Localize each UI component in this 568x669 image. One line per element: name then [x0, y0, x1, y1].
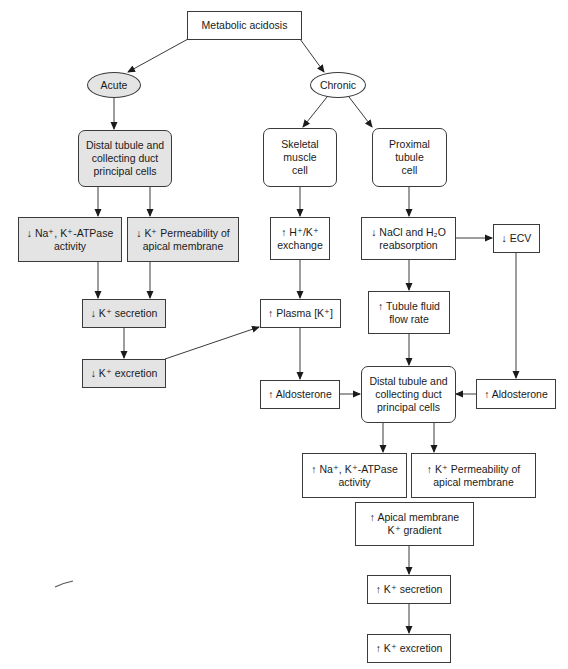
ecv-box: ↓ ECV: [493, 224, 540, 253]
h-k-exchange-box: ↑ H⁺/K⁺ exchange: [270, 217, 330, 260]
chronic-label: Chronic: [320, 79, 356, 92]
chronic-k-permeability-box: ↑ K⁺ Permeability of apical membrane: [411, 453, 536, 498]
acute-label: Acute: [101, 79, 128, 92]
h-k-exchange-label: ↑ H⁺/K⁺ exchange: [277, 226, 323, 252]
chronic-na-k-atpase-label: ↑ Na⁺, K⁺-ATPase activity: [311, 463, 398, 489]
metabolic-acidosis-box: Metabolic acidosis: [187, 11, 302, 40]
acute-k-permeability-label: ↓ K⁺ Permeability of apical membrane: [136, 227, 230, 253]
tubule-flow-box: ↑ Tubule fluid flow rate: [368, 291, 450, 334]
chronic-distal-cells-label: Distal tubule and collecting duct princi…: [369, 375, 447, 414]
acute-k-excretion-box: ↓ K⁺ excretion: [82, 359, 166, 388]
arrow-title-to-chronic: [300, 39, 324, 72]
nacl-reabsorption-box: ↓ NaCl and H₂O reabsorption: [361, 217, 456, 260]
tubule-flow-label: ↑ Tubule fluid flow rate: [378, 300, 440, 326]
ecv-label: ↓ ECV: [502, 232, 532, 245]
acute-k-secretion-label: ↓ K⁺ secretion: [91, 307, 158, 320]
apical-gradient-box: ↑ Apical membrane K⁺ gradient: [355, 502, 474, 546]
acute-k-excretion-label: ↓ K⁺ excretion: [91, 367, 158, 380]
acute-k-secretion-box: ↓ K⁺ secretion: [82, 299, 166, 328]
stray-pen-mark: [55, 581, 73, 587]
nacl-reabsorption-label: ↓ NaCl and H₂O reabsorption: [371, 226, 446, 252]
acute-k-permeability-box: ↓ K⁺ Permeability of apical membrane: [127, 217, 239, 262]
arrow-title-to-acute: [128, 39, 188, 72]
acute-distal-cells-box: Distal tubule and collecting duct princi…: [78, 130, 172, 187]
chronic-k-excretion-box: ↑ K⁺ excretion: [367, 634, 451, 663]
plasma-k-label: ↑ Plasma [K⁺]: [268, 307, 333, 320]
acute-na-k-atpase-box: ↓ Na⁺, K⁺-ATPase activity: [18, 217, 122, 262]
aldosterone-right-box: ↑ Aldosterone: [476, 379, 556, 409]
aldosterone-left-label: ↑ Aldosterone: [268, 388, 332, 401]
chronic-distal-cells-box: Distal tubule and collecting duct princi…: [361, 366, 456, 423]
arrow-chronic-to-skeletal: [303, 97, 327, 127]
connector-layer: [0, 0, 568, 669]
arrow-excretion-to-plasma: [165, 327, 259, 359]
acute-na-k-atpase-label: ↓ Na⁺, K⁺-ATPase activity: [27, 227, 114, 253]
aldosterone-right-label: ↑ Aldosterone: [484, 388, 548, 401]
arrow-chronic-to-proximal: [349, 97, 372, 127]
chronic-na-k-atpase-box: ↑ Na⁺, K⁺-ATPase activity: [302, 453, 407, 498]
chronic-k-secretion-label: ↑ K⁺ secretion: [376, 583, 443, 596]
chronic-k-excretion-label: ↑ K⁺ excretion: [376, 642, 443, 655]
aldosterone-left-box: ↑ Aldosterone: [260, 380, 340, 409]
skeletal-muscle-box: Skeletal muscle cell: [263, 128, 337, 187]
acute-ellipse: Acute: [87, 72, 141, 98]
chronic-ellipse: Chronic: [310, 72, 366, 98]
chronic-k-secretion-box: ↑ K⁺ secretion: [367, 575, 451, 604]
chronic-k-permeability-label: ↑ K⁺ Permeability of apical membrane: [427, 463, 521, 489]
proximal-tubule-label: Proximal tubule cell: [389, 138, 430, 177]
metabolic-acidosis-label: Metabolic acidosis: [202, 19, 288, 32]
apical-gradient-label: ↑ Apical membrane K⁺ gradient: [370, 511, 459, 537]
acute-distal-cells-label: Distal tubule and collecting duct princi…: [86, 139, 164, 178]
skeletal-muscle-label: Skeletal muscle cell: [281, 138, 318, 177]
proximal-tubule-box: Proximal tubule cell: [372, 128, 447, 187]
plasma-k-box: ↑ Plasma [K⁺]: [260, 299, 341, 328]
